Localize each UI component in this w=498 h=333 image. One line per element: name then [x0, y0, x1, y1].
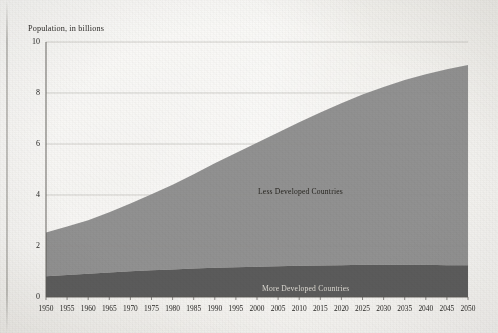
x-tick-label: 2050 — [455, 304, 481, 313]
y-tick-label: 2 — [24, 241, 40, 250]
population-area-chart: Population, in billions 0246810 19501955… — [0, 0, 498, 333]
y-tick-label: 10 — [24, 37, 40, 46]
y-tick-label: 6 — [24, 139, 40, 148]
y-axis-title: Population, in billions — [28, 24, 104, 33]
y-tick-label: 0 — [24, 292, 40, 301]
y-tick-label: 8 — [24, 88, 40, 97]
y-tick-label: 4 — [24, 190, 40, 199]
chart-plot-area — [0, 0, 498, 333]
series-label-less-developed: Less Developed Countries — [258, 187, 343, 196]
series-label-more-developed: More Developed Countries — [262, 284, 349, 293]
